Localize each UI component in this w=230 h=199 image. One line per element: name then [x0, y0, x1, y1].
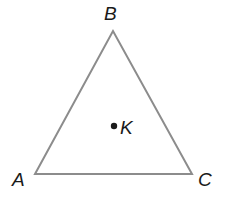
- vertex-label-c: C: [198, 170, 212, 189]
- triangle-diagram: B A C K: [0, 0, 230, 199]
- triangle-abc: [35, 31, 192, 174]
- triangle-figure: [0, 0, 230, 199]
- vertex-label-b: B: [104, 4, 117, 23]
- point-label-k: K: [120, 118, 133, 137]
- vertex-label-a: A: [12, 170, 25, 189]
- point-k-dot: [111, 123, 117, 129]
